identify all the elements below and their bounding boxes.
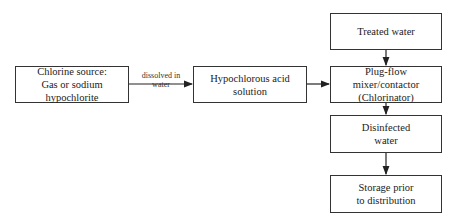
node-chlorine-source: Chlorine source:Gas or sodium hypochlori… bbox=[15, 66, 129, 103]
node-hypochlorous-acid: Hypochlorous acidsolution bbox=[193, 66, 307, 103]
node-disinfected-water: Disinfectedwater bbox=[330, 115, 442, 153]
node-label-line1: Chlorine source: bbox=[37, 66, 107, 77]
node-label-line2: Gas or sodium hypochlorite bbox=[41, 79, 102, 103]
node-label-line1: Plug-flow mixer/contactor bbox=[353, 66, 419, 90]
node-plug-flow-mixer: Plug-flow mixer/contactor(Chlorinator) bbox=[330, 66, 442, 103]
node-label-line2: (Chlorinator) bbox=[358, 92, 413, 103]
edge-label-dissolved-in-water: dissolved inwater bbox=[132, 71, 190, 89]
node-label-line1: Disinfected bbox=[362, 122, 410, 133]
node-label-line1: Hypochlorous acid bbox=[210, 73, 290, 84]
node-label-line1: Storage prior bbox=[358, 182, 413, 193]
node-treated-water: Treated water bbox=[330, 13, 442, 50]
node-label-line2: to distribution bbox=[356, 195, 415, 206]
node-label-line2: solution bbox=[233, 86, 267, 97]
node-label-line1: Treated water bbox=[357, 26, 415, 37]
node-label-line2: water bbox=[374, 135, 397, 146]
node-storage: Storage priorto distribution bbox=[330, 175, 442, 213]
